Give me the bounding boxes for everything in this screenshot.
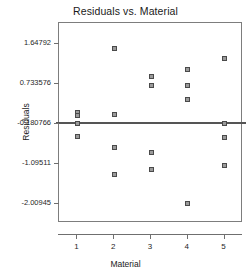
data-point: [185, 83, 190, 88]
data-point: [149, 150, 154, 155]
x-axis-tick: [150, 234, 151, 239]
data-point: [112, 112, 117, 117]
data-point: [149, 83, 154, 88]
plot-frame: Residuals: [58, 22, 242, 222]
data-point: [149, 167, 154, 172]
y-axis-tick-label: 1.64792: [24, 37, 51, 46]
residual-scatter-plot: Residuals vs. Material Residuals Materia…: [0, 0, 251, 276]
plot-area: [59, 23, 241, 221]
data-point: [112, 145, 117, 150]
y-axis-tick-label: -0.180766: [17, 118, 51, 127]
data-point: [222, 121, 227, 126]
x-axis-tick: [76, 234, 77, 239]
x-axis-tick-label: 1: [66, 242, 86, 251]
data-point: [185, 201, 190, 206]
data-point: [185, 97, 190, 102]
data-point: [222, 56, 227, 61]
data-point: [75, 134, 80, 139]
y-axis-tick: [54, 203, 59, 204]
x-axis-tick: [113, 234, 114, 239]
x-axis-tick-label: 2: [103, 242, 123, 251]
y-axis-tick: [54, 123, 59, 124]
data-point: [75, 113, 80, 118]
data-point: [75, 121, 80, 126]
data-point: [222, 163, 227, 168]
x-axis-tick-label: 4: [177, 242, 197, 251]
y-axis-tick-label: -1.09511: [22, 158, 51, 167]
data-point: [185, 67, 190, 72]
data-point: [112, 172, 117, 177]
chart-title: Residuals vs. Material: [0, 5, 251, 17]
y-axis-tick: [54, 43, 59, 44]
y-axis-tick-label: 0.733576: [20, 77, 51, 86]
x-axis-tick: [224, 234, 225, 239]
y-axis-tick: [54, 163, 59, 164]
data-point: [149, 74, 154, 79]
x-axis-tick-label: 3: [140, 242, 160, 251]
zero-reference-line: [56, 122, 246, 124]
x-axis-tick-label: 5: [214, 242, 234, 251]
data-point: [222, 135, 227, 140]
y-axis-tick-label: -2.00945: [21, 198, 51, 207]
x-axis-title: Material: [0, 259, 251, 269]
x-axis-tick: [187, 234, 188, 239]
data-point: [112, 46, 117, 51]
y-axis-tick: [54, 83, 59, 84]
